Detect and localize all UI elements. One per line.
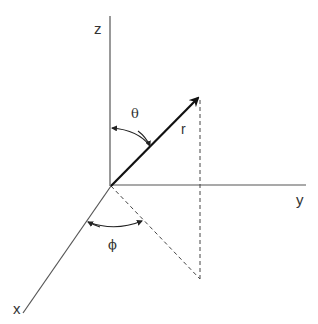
- radius-vector: [111, 98, 198, 186]
- spherical-coordinates-diagram: z y x θ ϕ r: [0, 0, 318, 324]
- diagram-svg: [0, 0, 318, 324]
- y-axis-label: y: [296, 192, 304, 207]
- z-axis-label: z: [94, 21, 102, 36]
- radius-label: r: [181, 122, 186, 136]
- x-axis-label: x: [13, 301, 21, 316]
- theta-label: θ: [131, 107, 139, 120]
- x-axis: [23, 186, 111, 313]
- xy-projection-line: [111, 186, 200, 279]
- phi-label: ϕ: [108, 238, 117, 251]
